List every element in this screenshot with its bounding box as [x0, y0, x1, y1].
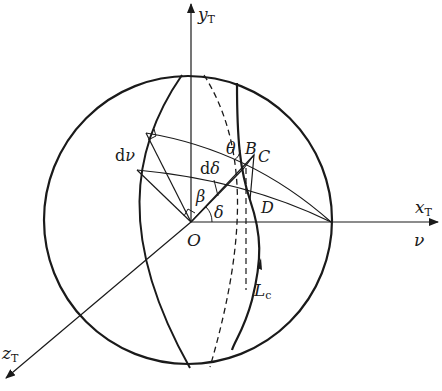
- right-angle-o: [184, 209, 195, 216]
- z-axis: [6, 222, 191, 378]
- curve-lc: [232, 83, 259, 350]
- d-nu-prefix: d: [115, 146, 125, 165]
- z-axis-label: zT: [2, 345, 18, 364]
- point-c-label: C: [258, 149, 270, 165]
- z-axis-letter: z: [2, 343, 11, 363]
- z-axis-subscript: T: [11, 352, 18, 365]
- sphere-diagram: [0, 0, 442, 391]
- x-axis-label: xT: [415, 199, 432, 218]
- nu-axis-label: ν: [414, 232, 424, 249]
- radius-to-p1: [146, 133, 191, 222]
- left-meridian: [139, 75, 190, 368]
- d-nu-symbol: ν: [125, 146, 135, 165]
- radius-to-p2: [137, 170, 191, 222]
- y-axis-label: yT: [198, 6, 215, 25]
- y-axis-subscript: T: [208, 13, 215, 26]
- d-delta-label: dδ: [200, 161, 220, 177]
- sphere-outline: [44, 76, 332, 364]
- point-b-label: B: [245, 141, 257, 157]
- theta-label: θ: [226, 141, 236, 157]
- d-delta-prefix: d: [200, 159, 210, 178]
- x-axis-letter: x: [415, 197, 425, 217]
- x-axis-subscript: T: [425, 206, 432, 219]
- curve-lc-label: Lc: [254, 282, 271, 301]
- delta-label: δ: [214, 205, 224, 221]
- origin-label: O: [187, 232, 201, 249]
- beta-label: β: [196, 189, 205, 205]
- d-delta-symbol: δ: [210, 159, 220, 178]
- curve-subscript: c: [265, 289, 271, 302]
- angle-delta-arc: [206, 207, 212, 222]
- y-axis-letter: y: [198, 4, 208, 24]
- d-nu-label: dν: [115, 148, 135, 164]
- curve-letter: L: [254, 280, 265, 300]
- point-d-label: D: [261, 200, 274, 216]
